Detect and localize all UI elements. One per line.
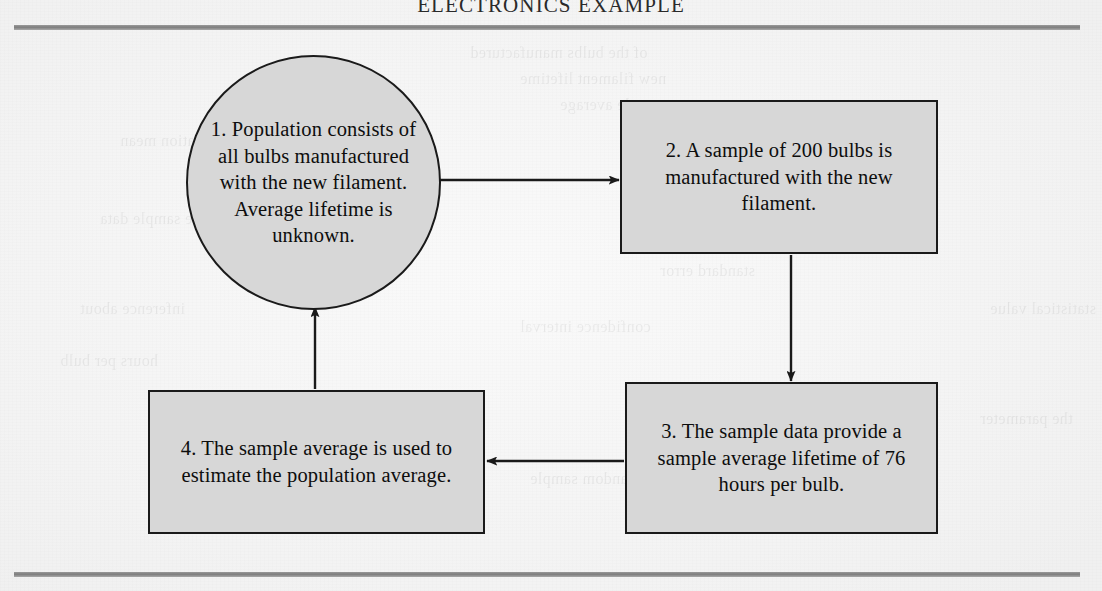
- scanned-page: of the bulbs manufacturednew filament li…: [0, 0, 1102, 591]
- flow-node-estimate: 4. The sample average is used to estimat…: [148, 390, 485, 534]
- flow-node-population-label: 1. Population consists of all bulbs manu…: [188, 116, 439, 249]
- flow-node-population: 1. Population consists of all bulbs manu…: [186, 55, 441, 310]
- flow-node-estimate-label: 4. The sample average is used to estimat…: [150, 435, 483, 488]
- flow-node-sample-data-label: 3. The sample data provide a sample aver…: [627, 418, 936, 498]
- flow-node-sample-label: 2. A sample of 200 bulbs is manufactured…: [622, 137, 936, 217]
- flow-node-sample-data: 3. The sample data provide a sample aver…: [625, 382, 938, 534]
- flowchart-diagram: 1. Population consists of all bulbs manu…: [0, 0, 1102, 591]
- flow-node-sample: 2. A sample of 200 bulbs is manufactured…: [620, 100, 938, 254]
